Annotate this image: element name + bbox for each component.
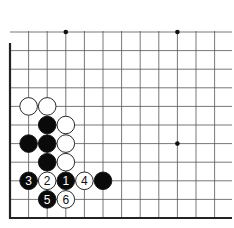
star-point-icon bbox=[175, 30, 180, 35]
move-number-label: 5 bbox=[44, 193, 51, 207]
white-stone-icon bbox=[57, 116, 75, 134]
black-stone-icon bbox=[38, 153, 56, 171]
move-number-label: 3 bbox=[25, 174, 32, 188]
white-stone-icon bbox=[57, 135, 75, 153]
black-stone-icon bbox=[20, 135, 38, 153]
move-number-label: 4 bbox=[81, 174, 88, 188]
white-stone-icon bbox=[38, 98, 56, 116]
black-stone-icon bbox=[38, 116, 56, 134]
go-board: 321456 bbox=[0, 0, 234, 228]
move-number-label: 1 bbox=[62, 174, 69, 188]
white-stone-icon bbox=[57, 153, 75, 171]
move-number-label: 2 bbox=[44, 174, 51, 188]
star-point-icon bbox=[64, 30, 69, 35]
black-stone-icon bbox=[94, 172, 112, 190]
white-stone-icon bbox=[20, 98, 38, 116]
move-number-label: 6 bbox=[62, 193, 69, 207]
black-stone-icon bbox=[38, 135, 56, 153]
star-point-icon bbox=[175, 141, 180, 146]
